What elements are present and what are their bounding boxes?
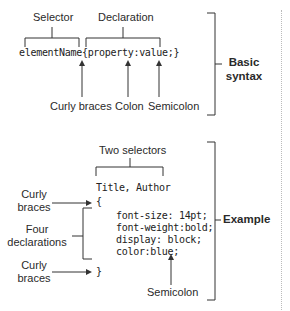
- curly-braces-top-label: Curly braces: [14, 188, 54, 214]
- colon-label: Colon: [115, 100, 144, 112]
- curly-bottom-line1: Curly: [14, 259, 54, 272]
- example-semicolon-label: Semicolon: [147, 286, 198, 298]
- curly-braces-bottom-label: Curly braces: [14, 259, 54, 285]
- declaration-4: color:blue;: [116, 246, 179, 257]
- basic-code: elementName{property:value;}: [19, 47, 179, 58]
- curly-braces-label: Curly braces: [50, 100, 112, 112]
- basic-syntax-label: Basic syntax: [224, 55, 264, 83]
- open-brace: {: [96, 196, 102, 207]
- two-selectors-label: Two selectors: [99, 144, 166, 156]
- basic-syntax-line2: syntax: [224, 69, 264, 83]
- four-line2: declarations: [4, 236, 70, 249]
- basic-syntax-line1: Basic: [224, 55, 264, 69]
- four-declarations-label: Four declarations: [4, 223, 70, 249]
- four-line1: Four: [4, 223, 70, 236]
- divider: [281, 10, 282, 310]
- example-selectors-code: Title, Author: [96, 182, 170, 193]
- curly-bottom-line2: braces: [14, 272, 54, 285]
- close-brace: }: [96, 266, 102, 277]
- curly-top-line2: braces: [14, 201, 54, 214]
- declaration-2: font-weight:bold;: [116, 222, 213, 233]
- curly-top-line1: Curly: [14, 188, 54, 201]
- declaration-3: display: block;: [116, 234, 202, 245]
- selector-label: Selector: [33, 11, 73, 23]
- semicolon-label: Semicolon: [148, 100, 199, 112]
- example-label: Example: [223, 213, 270, 225]
- declaration-1: font-size: 14pt;: [116, 210, 208, 221]
- declaration-label: Declaration: [98, 11, 154, 23]
